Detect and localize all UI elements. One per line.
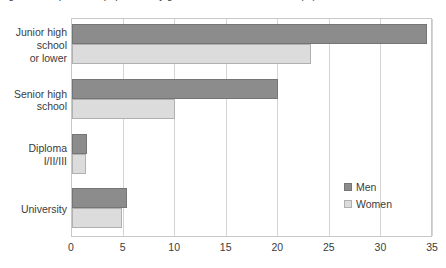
bar-women[interactable] (72, 208, 122, 228)
y-axis-label-line: Junior high (0, 26, 67, 39)
y-axis-label-line: school (0, 39, 67, 52)
bar-chart-figure: Junior highschoolor lowerSenior highscho… (0, 0, 446, 268)
bar-men[interactable] (72, 188, 127, 208)
y-axis-label-line: or lower (0, 52, 67, 65)
x-axis-tick-label: 20 (271, 241, 283, 253)
legend-swatch-men-icon (344, 183, 352, 191)
x-axis-tick-label: 0 (68, 241, 74, 253)
y-axis-label-line: Diploma (0, 142, 67, 155)
chart-legend: Men Women (344, 180, 416, 214)
x-axis-tick-label: 15 (220, 241, 232, 253)
gridline-35 (432, 19, 433, 236)
bar-group (72, 19, 431, 74)
x-axis-tick-label: 10 (168, 241, 180, 253)
bar-men[interactable] (72, 79, 278, 99)
x-axis-tick-label: 35 (426, 241, 438, 253)
legend-item-men[interactable]: Men (344, 180, 416, 194)
y-axis-label-line: University (0, 203, 67, 216)
y-axis-label: University (0, 203, 67, 216)
x-axis-tick-labels: 05101520253035 (0, 241, 446, 259)
y-axis-label: Senior highschool (0, 88, 67, 113)
legend-label-women: Women (356, 198, 392, 210)
bar-men[interactable] (72, 134, 87, 154)
bar-men[interactable] (72, 24, 427, 44)
y-axis-label-line: Senior high (0, 88, 67, 101)
bar-group (72, 74, 431, 129)
y-axis-label: Junior highschoolor lower (0, 26, 67, 64)
x-axis-tick-label: 5 (120, 241, 126, 253)
y-axis-label: DiplomaI/II/III (0, 142, 67, 167)
y-axis-category-labels: Junior highschoolor lowerSenior highscho… (0, 18, 67, 237)
bar-women[interactable] (72, 99, 175, 119)
y-axis-label-line: school (0, 100, 67, 113)
x-axis-tick-label: 30 (375, 241, 387, 253)
bar-group (72, 129, 431, 184)
bar-women[interactable] (72, 154, 86, 174)
x-axis-tick-label: 25 (323, 241, 335, 253)
legend-swatch-women-icon (344, 200, 352, 208)
legend-item-women[interactable]: Women (344, 197, 416, 211)
bar-women[interactable] (72, 44, 311, 64)
legend-label-men: Men (356, 181, 376, 193)
y-axis-label-line: I/II/III (0, 155, 67, 168)
